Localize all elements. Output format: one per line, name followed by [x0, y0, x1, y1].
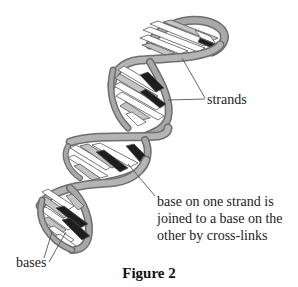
label-crosslinks-line-3: other by cross-links — [157, 227, 283, 244]
figure-caption: Figure 2 — [0, 265, 298, 282]
strands-leader-upper — [182, 58, 205, 98]
label-strands: strands — [207, 91, 247, 108]
label-crosslinks: base on one strand is joined to a base o… — [157, 193, 283, 244]
dna-figure: strands base on one strand is joined to … — [0, 0, 298, 287]
label-crosslinks-line-1: base on one strand is — [157, 193, 283, 210]
strands-leader-lower — [168, 99, 205, 100]
label-crosslinks-line-2: joined to a base on the — [157, 210, 283, 227]
